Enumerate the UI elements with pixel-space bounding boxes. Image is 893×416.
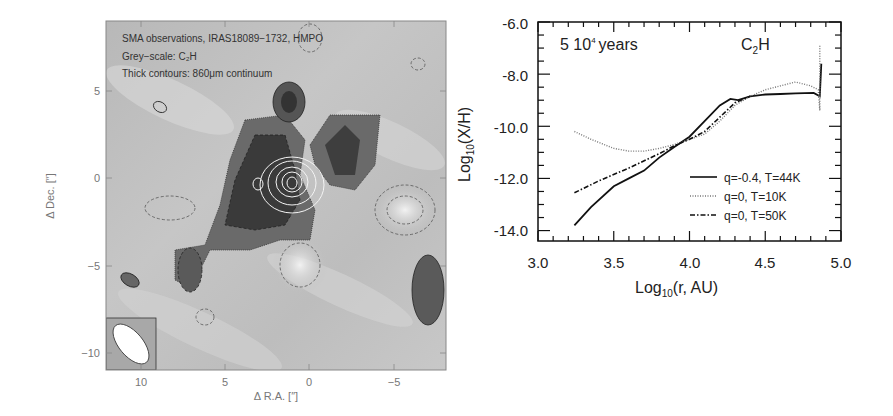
y-tick: -8.0 <box>502 67 528 84</box>
plot-frame <box>538 22 841 241</box>
y-axis-label: Log10(X/H) <box>456 107 476 182</box>
x-tick: 3.5 <box>604 254 625 271</box>
x-tick: 5 <box>222 376 228 388</box>
c2h-map: SMA observations, IRAS18089−1732, HMPO G… <box>0 0 450 416</box>
y-tick: −5 <box>87 260 100 272</box>
x-tick: 4.5 <box>755 254 776 271</box>
y-tick: −10 <box>81 347 100 359</box>
y-tick: -14.0 <box>494 222 528 239</box>
x-axis-label: Δ R.A. [″] <box>254 390 298 402</box>
x-tick: 3.0 <box>528 254 549 271</box>
map-contour-note: Thick contours: 860μm continuum <box>122 68 272 79</box>
y-tick: 0 <box>94 172 100 184</box>
time-label: 5 104years <box>560 36 638 53</box>
x-tick: −5 <box>388 376 401 388</box>
map-greyscale-note: Grey−scale: C₂H <box>122 51 197 62</box>
legend-entry: q=-0.4, T=44K <box>724 171 801 185</box>
y-tick: -12.0 <box>494 170 528 187</box>
abundance-plot: -6.0 -8.0 -10.0 -12.0 -14.0 3.0 3.5 4.0 … <box>450 0 893 416</box>
x-tick: 5.0 <box>831 254 852 271</box>
legend-entry: q=0, T=10K <box>724 190 787 204</box>
map-title: SMA observations, IRAS18089−1732, HMPO <box>122 33 323 44</box>
x-axis-label: Log10(r, AU) <box>635 279 718 299</box>
legend: q=-0.4, T=44K q=0, T=10K q=0, T=50K <box>690 171 801 223</box>
y-axis-label: Δ Dec. [″] <box>44 173 56 218</box>
series-line <box>574 46 819 152</box>
species-label: C2H <box>741 36 770 56</box>
y-tick: -6.0 <box>502 15 528 32</box>
y-tick: 5 <box>94 85 100 97</box>
c2h-map-panel: SMA observations, IRAS18089−1732, HMPO G… <box>0 0 450 416</box>
abundance-plot-panel: -6.0 -8.0 -10.0 -12.0 -14.0 3.0 3.5 4.0 … <box>450 0 893 416</box>
legend-entry: q=0, T=50K <box>724 209 787 223</box>
y-tick: -10.0 <box>494 119 528 136</box>
x-tick: 0 <box>306 376 312 388</box>
x-tick: 4.0 <box>680 254 701 271</box>
x-tick: 10 <box>135 376 147 388</box>
